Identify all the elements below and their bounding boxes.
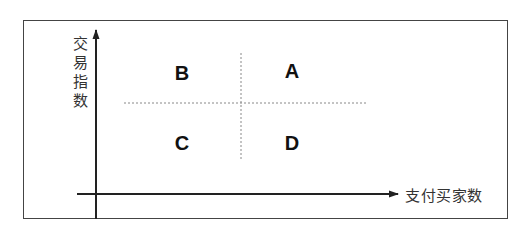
quadrant-label-top-left: B	[167, 62, 197, 84]
y-axis-label: 交易指数	[71, 35, 89, 111]
x-axis-label: 支付买家数	[405, 184, 483, 205]
quadrant-label-top-right: A	[277, 60, 307, 82]
quadrant-label-bottom-right: D	[277, 132, 307, 154]
quadrant-label-bottom-left: C	[167, 132, 197, 154]
